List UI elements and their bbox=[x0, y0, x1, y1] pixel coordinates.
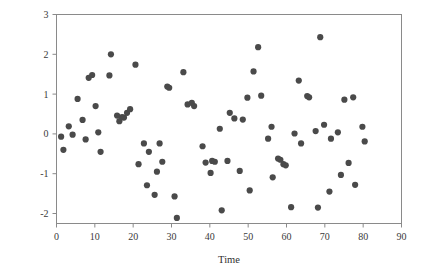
data-point bbox=[268, 124, 274, 130]
data-point bbox=[346, 160, 352, 166]
data-point bbox=[212, 159, 218, 165]
data-point bbox=[231, 115, 237, 121]
x-tick-label: 10 bbox=[90, 231, 100, 242]
data-point bbox=[154, 169, 160, 175]
plot-canvas: 0102030405060708090 -2-10123 Time bbox=[0, 0, 421, 276]
data-point bbox=[60, 147, 66, 153]
data-point bbox=[265, 136, 271, 142]
data-point bbox=[317, 34, 323, 40]
data-point bbox=[106, 72, 112, 78]
data-point bbox=[321, 122, 327, 128]
x-tick-label: 70 bbox=[320, 231, 330, 242]
data-point bbox=[237, 168, 243, 174]
data-point bbox=[171, 193, 177, 199]
data-point bbox=[326, 189, 332, 195]
data-point bbox=[180, 69, 186, 75]
data-point bbox=[79, 117, 85, 123]
data-point bbox=[135, 161, 141, 167]
data-point bbox=[255, 44, 261, 50]
data-point bbox=[298, 140, 304, 146]
data-point bbox=[199, 143, 205, 149]
data-point bbox=[350, 94, 356, 100]
x-tick-label: 50 bbox=[243, 231, 253, 242]
data-point bbox=[306, 94, 312, 100]
data-point bbox=[224, 158, 230, 164]
data-point bbox=[159, 159, 165, 165]
data-point bbox=[97, 149, 103, 155]
data-point bbox=[270, 174, 276, 180]
data-point bbox=[352, 182, 358, 188]
data-point bbox=[66, 123, 72, 129]
data-point bbox=[341, 97, 347, 103]
data-point bbox=[83, 136, 89, 142]
data-point bbox=[328, 136, 334, 142]
data-point bbox=[335, 129, 341, 135]
data-point bbox=[152, 192, 158, 198]
x-tick-label: 40 bbox=[205, 231, 215, 242]
data-point bbox=[296, 77, 302, 83]
x-tick-label: 20 bbox=[128, 231, 138, 242]
data-point bbox=[93, 103, 99, 109]
data-point bbox=[288, 204, 294, 210]
data-point bbox=[219, 207, 225, 213]
data-point bbox=[247, 187, 253, 193]
data-point bbox=[132, 62, 138, 68]
x-tick-label: 60 bbox=[282, 231, 292, 242]
data-point bbox=[338, 172, 344, 178]
data-point bbox=[291, 130, 297, 136]
data-point bbox=[283, 162, 289, 168]
data-point bbox=[191, 103, 197, 109]
data-point bbox=[250, 68, 256, 74]
data-point bbox=[89, 72, 95, 78]
data-point bbox=[240, 116, 246, 122]
data-point bbox=[144, 182, 150, 188]
y-tick-label: 3 bbox=[44, 9, 49, 20]
data-point bbox=[146, 149, 152, 155]
data-point bbox=[141, 140, 147, 146]
data-point bbox=[157, 140, 163, 146]
x-tick-label: 90 bbox=[397, 231, 407, 242]
x-tick-label: 0 bbox=[54, 231, 59, 242]
data-point bbox=[315, 204, 321, 210]
data-point bbox=[258, 93, 264, 99]
data-point bbox=[227, 110, 233, 116]
y-tick-label: -2 bbox=[40, 208, 48, 219]
y-tick-label: 0 bbox=[44, 128, 49, 139]
y-tick-label: 1 bbox=[44, 89, 49, 100]
x-tick-label: 30 bbox=[167, 231, 177, 242]
data-point bbox=[166, 85, 172, 91]
data-point bbox=[359, 124, 365, 130]
y-tick-label: -1 bbox=[40, 168, 48, 179]
data-point bbox=[208, 170, 214, 176]
x-axis-title: Time bbox=[218, 254, 240, 265]
data-point bbox=[217, 126, 223, 132]
data-point bbox=[174, 215, 180, 221]
data-point bbox=[58, 134, 64, 140]
data-point bbox=[313, 128, 319, 134]
data-point bbox=[127, 106, 133, 112]
x-tick-label: 80 bbox=[358, 231, 368, 242]
y-tick-label: 2 bbox=[44, 49, 49, 60]
data-point bbox=[95, 129, 101, 135]
data-point bbox=[74, 96, 80, 102]
data-point bbox=[70, 132, 76, 138]
scatter-chart: 0102030405060708090 -2-10123 Time bbox=[0, 0, 421, 276]
data-point bbox=[108, 51, 114, 57]
data-point bbox=[244, 95, 250, 101]
data-point bbox=[362, 138, 368, 144]
data-point bbox=[203, 159, 209, 165]
